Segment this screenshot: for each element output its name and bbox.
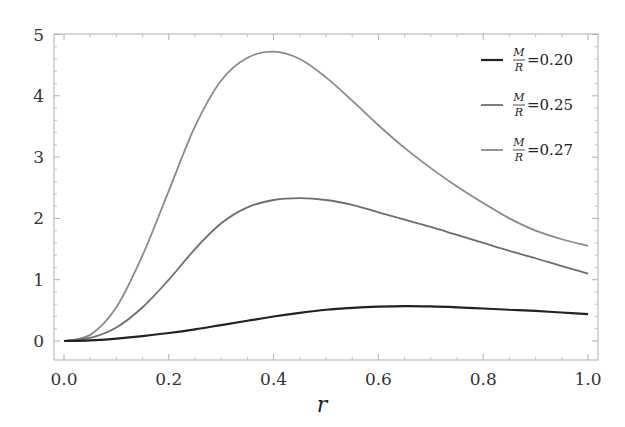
legend-label: =0.27 (527, 141, 573, 159)
x-tick-label: 0.0 (50, 369, 77, 389)
legend-label: =0.25 (527, 96, 573, 114)
x-tick-label: 0.4 (260, 369, 287, 389)
legend-label: =0.20 (527, 51, 573, 69)
y-tick-label: 4 (33, 86, 44, 106)
x-tick-label: 1.0 (574, 369, 601, 389)
x-tick-labels: 0.00.20.40.60.81.0 (50, 369, 601, 389)
legend: MR=0.20MR=0.25MR=0.27 (481, 46, 573, 164)
legend-fraction-numerator: M (512, 46, 525, 59)
series-line (64, 52, 588, 341)
line-chart: 0.00.20.40.60.81.0 012345 r MR=0.20MR=0.… (0, 0, 625, 427)
y-tick-label: 3 (33, 147, 44, 167)
legend-fraction-numerator: M (512, 91, 525, 104)
y-tick-label: 2 (33, 208, 44, 228)
legend-fraction-denominator: R (514, 106, 523, 119)
x-tick-label: 0.8 (470, 369, 497, 389)
y-tick-label: 0 (33, 331, 44, 351)
x-tick-label: 0.2 (155, 369, 182, 389)
x-tick-label: 0.6 (365, 369, 392, 389)
legend-fraction-numerator: M (512, 136, 525, 149)
series-line (64, 306, 588, 341)
data-series (64, 52, 588, 341)
legend-fraction-denominator: R (514, 61, 523, 74)
y-tick-label: 5 (33, 25, 44, 45)
y-tick-label: 1 (33, 270, 44, 290)
legend-fraction-denominator: R (514, 151, 523, 164)
series-line (64, 198, 588, 341)
x-axis-label: r (317, 392, 329, 417)
y-tick-labels: 012345 (33, 25, 44, 352)
